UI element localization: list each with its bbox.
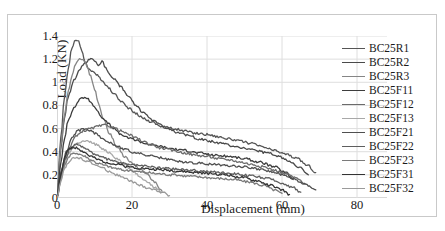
- legend-item-label: BC25F22: [369, 141, 414, 152]
- legend-swatch-line-icon: [342, 62, 365, 63]
- legend-item[interactable]: BC25R2: [342, 55, 438, 69]
- legend-swatch-line-icon: [342, 118, 365, 119]
- legend-swatch-line-icon: [342, 90, 365, 91]
- y-axis-ticks: 00.20.40.60.811.21.4: [24, 15, 58, 218]
- legend-item[interactable]: BC25F11: [342, 83, 438, 97]
- chart-figure: Load (KN) 00.20.40.60.811.21.4 020406080…: [7, 14, 437, 217]
- legend-swatch-line-icon: [342, 188, 365, 189]
- y-tick-label: 1: [28, 77, 58, 87]
- x-tick-label: 80: [337, 198, 377, 213]
- series-line: [57, 97, 293, 198]
- legend-item-label: BC25F32: [369, 183, 414, 194]
- legend-item-label: BC25F31: [369, 169, 414, 180]
- y-tick-label: 0.8: [28, 100, 58, 110]
- y-tick-label: 0.6: [28, 124, 58, 134]
- legend-swatch-line-icon: [342, 132, 365, 133]
- legend-item[interactable]: BC25F23: [342, 154, 438, 168]
- legend-item-label: BC25F11: [369, 85, 413, 96]
- y-tick-label: 1.2: [28, 54, 58, 64]
- legend-item[interactable]: BC25F32: [342, 182, 438, 196]
- chart-legend: BC25R1BC25R2BC25R3BC25F11BC25F12BC25F13B…: [342, 41, 438, 196]
- legend-item[interactable]: BC25F21: [342, 126, 438, 140]
- x-axis-label: Displacement (mm): [163, 201, 343, 217]
- legend-item-label: BC25F12: [369, 99, 414, 110]
- legend-item[interactable]: BC25F22: [342, 140, 438, 154]
- legend-item[interactable]: BC25F31: [342, 168, 438, 182]
- legend-item[interactable]: BC25F13: [342, 111, 438, 125]
- y-tick-label: 1.4: [28, 31, 58, 41]
- legend-swatch-line-icon: [342, 174, 365, 175]
- legend-item[interactable]: BC25R3: [342, 69, 438, 83]
- x-tick-label: 0: [37, 198, 77, 213]
- x-tick-label: 20: [112, 198, 152, 213]
- series-line: [57, 147, 290, 198]
- legend-item-label: BC25R2: [369, 57, 409, 68]
- legend-item-label: BC25F21: [369, 127, 414, 138]
- legend-item-label: BC25F23: [369, 155, 414, 166]
- legend-item-label: BC25R3: [369, 71, 409, 82]
- series-line: [57, 141, 162, 198]
- legend-item[interactable]: BC25R1: [342, 41, 438, 55]
- legend-swatch-line-icon: [342, 48, 365, 49]
- legend-item-label: BC25R1: [369, 43, 409, 54]
- legend-swatch-line-icon: [342, 76, 365, 77]
- legend-swatch-line-icon: [342, 160, 365, 161]
- legend-item-label: BC25F13: [369, 113, 414, 124]
- plot-svg: [57, 36, 387, 198]
- plot-area: [57, 36, 387, 198]
- legend-swatch-line-icon: [342, 104, 365, 105]
- legend-swatch-line-icon: [342, 146, 365, 147]
- series-line: [57, 40, 316, 198]
- legend-item[interactable]: BC25F12: [342, 97, 438, 111]
- y-tick-label: 0.2: [28, 170, 58, 180]
- y-tick-label: 0.4: [28, 147, 58, 157]
